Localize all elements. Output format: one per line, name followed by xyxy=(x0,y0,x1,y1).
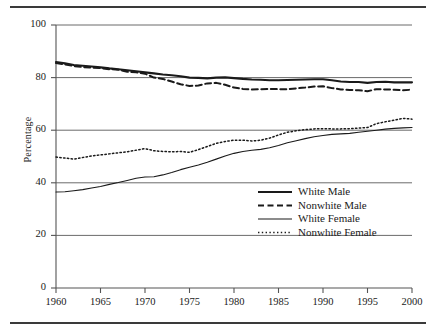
y-tick-label: 80 xyxy=(12,71,46,82)
legend-item-label: Nonwhite Male xyxy=(298,199,367,211)
plot-area xyxy=(0,0,436,332)
data-series xyxy=(56,62,412,192)
x-tick-label: 1980 xyxy=(211,296,257,307)
y-tick-label: 20 xyxy=(12,228,46,239)
x-tick-label: 1960 xyxy=(33,296,79,307)
y-tick-label: 100 xyxy=(12,18,46,29)
legend-line-samples xyxy=(258,192,292,233)
y-tick-label: 60 xyxy=(12,123,46,134)
x-tick-label: 1965 xyxy=(78,296,124,307)
x-tick-label: 1970 xyxy=(122,296,168,307)
x-tick-label: 2000 xyxy=(389,296,435,307)
legend-item-label: White Male xyxy=(298,185,350,197)
x-tick-label: 1990 xyxy=(300,296,346,307)
legend-item-label: Nonwhite Female xyxy=(298,226,377,238)
x-tick-label: 1995 xyxy=(345,296,391,307)
series-line xyxy=(56,62,412,83)
axis-ticks xyxy=(51,25,412,293)
y-tick-label: 0 xyxy=(12,281,46,292)
chart-figure: Percentage 020406080100 1960196519701975… xyxy=(0,0,436,332)
legend-item-label: White Female xyxy=(298,212,360,224)
y-tick-label: 40 xyxy=(12,176,46,187)
x-tick-label: 1975 xyxy=(167,296,213,307)
axis-lines xyxy=(56,25,412,288)
x-tick-label: 1985 xyxy=(256,296,302,307)
